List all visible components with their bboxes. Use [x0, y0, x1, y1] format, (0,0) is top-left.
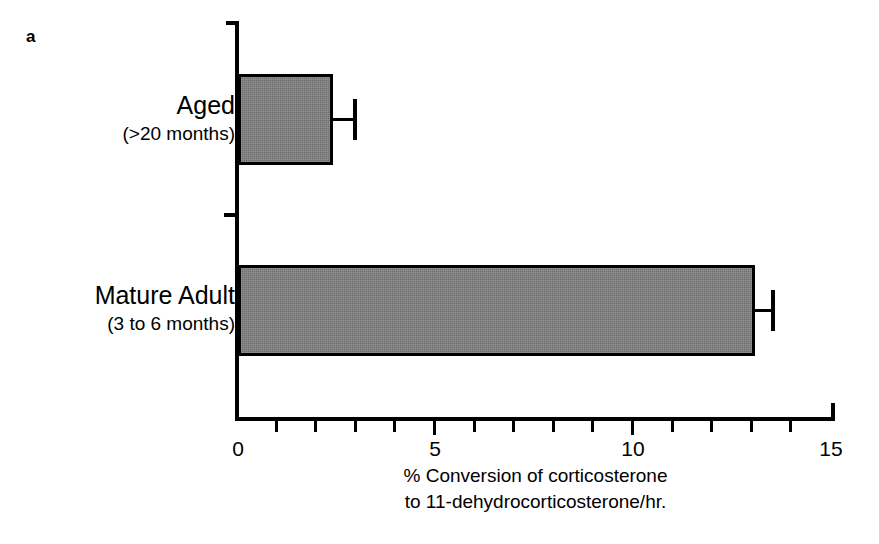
x-tick-minor-12 — [710, 421, 713, 432]
x-tick-minor-8 — [552, 421, 555, 432]
x-tick-label-10: 10 — [621, 438, 644, 459]
category-label-mature-adult: Mature Adult (3 to 6 months) — [95, 281, 235, 334]
y-axis-top-cap — [226, 21, 236, 25]
x-tick-minor-11 — [671, 421, 674, 432]
x-tick-minor-6 — [473, 421, 476, 432]
x-tick-minor-9 — [591, 421, 594, 432]
x-tick-major-10 — [631, 421, 634, 435]
x-tick-major-5 — [433, 421, 436, 435]
panel-letter: a — [26, 28, 35, 45]
x-axis-end-cap — [831, 403, 835, 419]
error-bar-cap-aged — [353, 99, 357, 140]
x-axis-title: % Conversion of corticosterone to 11-deh… — [239, 463, 832, 514]
category-label-aged-sublabel: (>20 months) — [123, 123, 235, 144]
x-axis-start-cap — [235, 403, 239, 419]
bar-aged — [238, 74, 333, 165]
x-tick-label-5: 5 — [429, 438, 441, 459]
category-label-aged-name: Aged — [123, 91, 235, 119]
x-tick-minor-14 — [789, 421, 792, 432]
x-tick-minor-1 — [275, 421, 278, 432]
plot-area: 0 5 10 15 — [238, 21, 832, 417]
x-tick-label-0: 0 — [232, 438, 244, 459]
category-label-mature-adult-name: Mature Adult — [95, 281, 235, 309]
category-label-aged: Aged (>20 months) — [123, 91, 235, 144]
x-tick-minor-3 — [354, 421, 357, 432]
figure-panel-a: a Aged (>20 months) Mature Adult (3 to 6… — [0, 0, 879, 544]
category-label-mature-adult-sublabel: (3 to 6 months) — [95, 313, 235, 334]
x-tick-minor-7 — [512, 421, 515, 432]
y-axis-mid-tick — [224, 213, 236, 217]
x-tick-label-15: 15 — [819, 438, 842, 459]
error-bar-cap-mature-adult — [771, 290, 775, 331]
x-axis-line — [235, 417, 835, 421]
x-tick-minor-2 — [314, 421, 317, 432]
x-axis-title-line-1: % Conversion of corticosterone — [239, 463, 832, 489]
bar-mature-adult — [238, 265, 755, 356]
x-axis-title-line-2: to 11-dehydrocorticosterone/hr. — [239, 489, 832, 515]
x-tick-minor-4 — [393, 421, 396, 432]
x-tick-minor-13 — [750, 421, 753, 432]
